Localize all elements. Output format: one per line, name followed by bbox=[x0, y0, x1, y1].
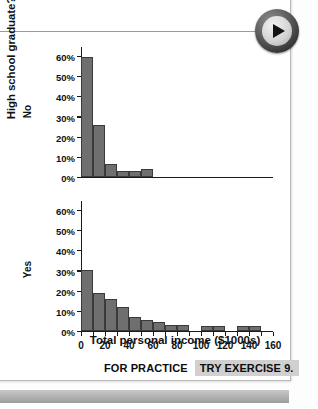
play-icon bbox=[273, 24, 285, 38]
histogram-chart: High school graduate? No Yes 0%10%20%30%… bbox=[0, 38, 300, 348]
y-tick-label: 40% bbox=[56, 246, 75, 257]
y-tick-label: 60% bbox=[56, 206, 75, 217]
panel-no: 0%10%20%30%40%50%60% bbox=[81, 47, 273, 178]
y-tick-label: 50% bbox=[56, 72, 75, 83]
section-divider-rule bbox=[0, 31, 263, 32]
textbook-page: High school graduate? No Yes 0%10%20%30%… bbox=[0, 0, 318, 409]
footer: FOR PRACTICE TRY EXERCISE 9. bbox=[104, 360, 299, 376]
y-tick-label: 10% bbox=[56, 152, 75, 163]
histogram-bar bbox=[153, 322, 165, 332]
y-tick-label: 10% bbox=[56, 306, 75, 317]
y-tick-label: 0% bbox=[61, 173, 75, 184]
histogram-bar bbox=[141, 320, 153, 332]
histogram-bar bbox=[129, 317, 141, 331]
panel-label-no: No bbox=[22, 105, 33, 118]
y-tick-label: 40% bbox=[56, 92, 75, 103]
panel-yes: 0%10%20%30%40%50%60%02040608010012014016… bbox=[81, 201, 273, 332]
histogram-bar bbox=[237, 326, 249, 331]
y-tick-label: 50% bbox=[56, 226, 75, 237]
page-bottom-strip bbox=[0, 390, 289, 403]
y-axis-title: High school graduate? bbox=[5, 0, 17, 128]
histogram-bar bbox=[93, 125, 105, 177]
y-tick-label: 60% bbox=[56, 52, 75, 63]
y-tick-label: 20% bbox=[56, 286, 75, 297]
histogram-bar bbox=[249, 326, 261, 331]
histogram-bar bbox=[177, 325, 189, 331]
histogram-bar bbox=[117, 171, 129, 177]
y-tick bbox=[77, 230, 82, 231]
y-tick-label: 20% bbox=[56, 132, 75, 143]
histogram-bar bbox=[141, 169, 153, 177]
histogram-bar bbox=[81, 57, 93, 177]
y-tick-label: 30% bbox=[56, 112, 75, 123]
for-practice-label: FOR PRACTICE bbox=[104, 362, 188, 374]
histogram-bar bbox=[81, 270, 93, 331]
histogram-bar bbox=[201, 326, 213, 331]
histogram-bar bbox=[129, 171, 141, 177]
panel-label-yes: Yes bbox=[22, 261, 33, 278]
histogram-bar bbox=[117, 307, 129, 331]
histogram-bar bbox=[165, 325, 177, 331]
histogram-bar bbox=[105, 299, 117, 332]
histogram-bar bbox=[105, 164, 117, 177]
histogram-bar bbox=[93, 293, 105, 332]
try-exercise-link[interactable]: TRY EXERCISE 9. bbox=[195, 360, 299, 376]
y-tick bbox=[77, 210, 82, 211]
y-tick bbox=[77, 250, 82, 251]
x-axis-title: Total personal income ($1000s) bbox=[60, 334, 290, 346]
histogram-bar bbox=[213, 326, 225, 331]
y-tick-label: 30% bbox=[56, 266, 75, 277]
